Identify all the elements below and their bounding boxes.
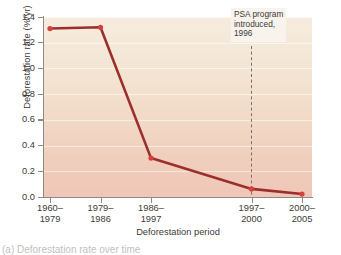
deforestation-rate-markers — [47, 25, 304, 197]
figure-caption: (a) Deforestation rate over time — [2, 244, 140, 255]
data-point — [98, 25, 103, 30]
data-point — [148, 156, 153, 161]
annotation-psa-program: PSA program introduced, 1996 — [231, 8, 286, 42]
data-point — [249, 186, 254, 191]
data-point — [47, 26, 52, 31]
deforestation-rate-line — [50, 27, 302, 194]
data-point — [299, 191, 304, 196]
